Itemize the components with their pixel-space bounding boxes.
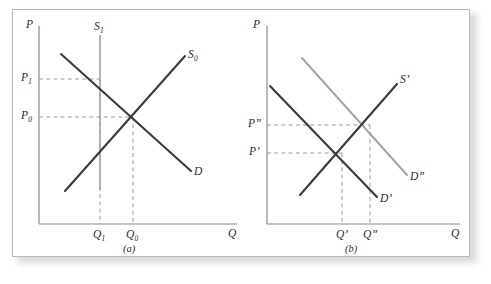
panel-a-plot <box>13 10 242 258</box>
panel-b-plot <box>242 10 471 258</box>
panel-a-guides <box>39 79 133 224</box>
panel-a-tick-q0: Q0 <box>126 229 138 241</box>
panel-b-tick-p-double: P” <box>248 118 261 130</box>
tick-q-double-prime: ” <box>371 228 377 240</box>
tick-p-double-base: P <box>248 117 255 129</box>
tick-q1-sub: 1 <box>102 234 106 243</box>
curve-label-s-prime: S’ <box>400 74 409 86</box>
tick-q0-base: Q <box>126 228 134 240</box>
panel-a-tick-q1: Q1 <box>93 229 105 241</box>
panel-b-tick-q-double: Q” <box>363 229 378 241</box>
panel-a-y-axis-label: P <box>26 19 33 31</box>
curve-d-prime <box>270 86 377 197</box>
tick-p1-base: P <box>21 71 28 83</box>
panel-a: P Q P1 P0 Q1 Q0 S1 S0 <box>13 10 242 258</box>
tick-p-single-prime: ’ <box>256 145 260 157</box>
panel-b-tick-q-single: Q’ <box>336 229 348 241</box>
curve-label-d-base: D <box>194 165 202 177</box>
tick-q1-base: Q <box>93 228 101 240</box>
tick-p1-sub: 1 <box>28 77 32 86</box>
panel-a-x-axis-label: Q <box>228 228 236 240</box>
panel-a-tick-p0: P0 <box>21 110 32 122</box>
curve-label-s0: S0 <box>188 49 198 61</box>
curve-label-s0-base: S <box>188 48 194 60</box>
panel-b-tick-p-single: P’ <box>249 146 260 158</box>
curve-label-s1: S1 <box>94 21 104 33</box>
curve-s-prime <box>300 84 397 195</box>
panel-b-x-axis-label: Q <box>451 228 459 240</box>
figure-root: P Q P1 P0 Q1 Q0 S1 S0 <box>0 0 491 284</box>
curve-label-d-double: D” <box>410 171 425 183</box>
curve-label-s1-sub: 1 <box>100 26 104 35</box>
figure-frame: P Q P1 P0 Q1 Q0 S1 S0 <box>12 9 470 257</box>
tick-q-single-prime: ’ <box>344 228 348 240</box>
curve-label-d-prime: D’ <box>380 193 392 205</box>
tick-q0-sub: 0 <box>135 234 139 243</box>
curve-s0 <box>65 56 185 191</box>
panel-b: P Q P” P’ Q’ Q” S’ D’ <box>242 10 471 258</box>
curve-d-double <box>302 58 407 175</box>
curve-label-d: D <box>194 166 202 178</box>
tick-p0-base: P <box>21 109 28 121</box>
panel-a-tick-p1: P1 <box>21 72 32 84</box>
curve-label-s1-base: S <box>94 20 100 32</box>
curve-label-d-double-mark: ” <box>418 170 424 182</box>
curve-label-s-prime-mark: ’ <box>406 73 410 85</box>
curve-label-d-prime-mark: ’ <box>388 192 392 204</box>
tick-p-double-prime: ” <box>255 117 261 129</box>
tick-p0-sub: 0 <box>28 115 32 124</box>
panel-a-axes <box>39 26 237 224</box>
curve-label-s0-sub: 0 <box>194 54 198 63</box>
tick-p-single-base: P <box>249 145 256 157</box>
panel-a-caption: (a) <box>123 244 135 255</box>
panel-b-y-axis-label: P <box>253 19 260 31</box>
panel-b-caption: (b) <box>345 244 357 255</box>
